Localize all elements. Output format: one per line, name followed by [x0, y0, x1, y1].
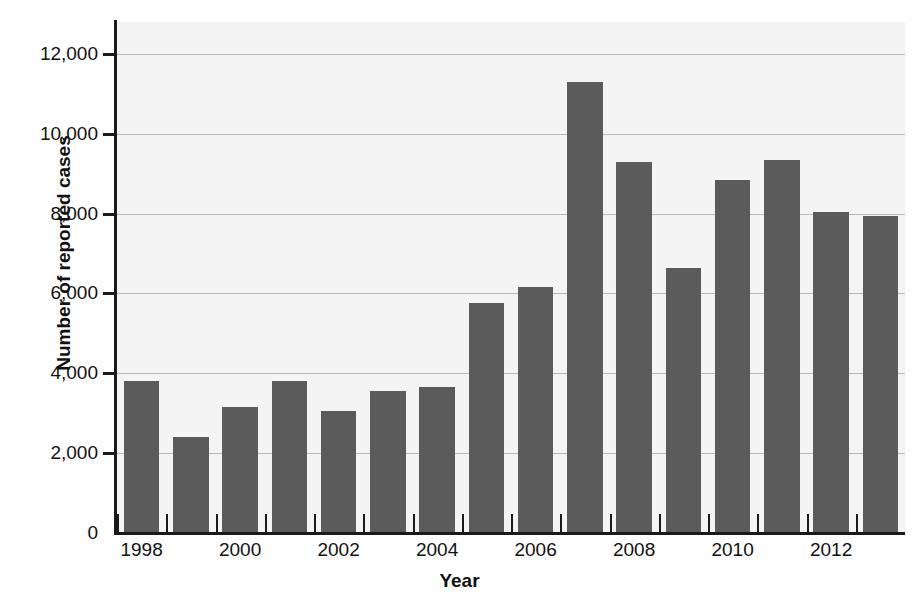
bar — [370, 391, 405, 533]
x-axis-minor-tick-mark — [363, 514, 365, 533]
x-axis-title: Year — [0, 570, 919, 592]
x-axis-minor-tick-mark — [610, 514, 612, 533]
gridline — [117, 134, 905, 135]
bar — [863, 216, 898, 533]
x-axis-minor-tick-mark — [413, 514, 415, 533]
y-axis-tick-mark — [103, 213, 117, 216]
x-axis-minor-tick-mark — [216, 514, 218, 533]
x-axis-minor-tick-mark — [462, 514, 464, 533]
y-axis-tick-label: 4,000 — [12, 363, 98, 382]
x-axis-tick-label: 1998 — [107, 540, 177, 560]
x-axis-minor-tick-mark — [265, 514, 267, 533]
x-axis-minor-tick-mark — [166, 514, 168, 533]
y-axis-tick-label: 6,000 — [12, 283, 98, 302]
x-axis-minor-tick-mark — [314, 514, 316, 533]
y-axis-tick-label: 10,000 — [12, 124, 98, 143]
y-axis-tick-mark — [103, 372, 117, 375]
x-axis-minor-tick-mark — [560, 514, 562, 533]
bar — [715, 180, 750, 533]
x-axis-minor-tick-mark — [708, 514, 710, 533]
y-axis-tick-label: 8,000 — [12, 204, 98, 223]
bar — [813, 212, 848, 533]
bar-chart-figure: Number of reported cases 02,0004,0006,00… — [0, 0, 919, 611]
bar — [124, 381, 159, 533]
bar — [419, 387, 454, 533]
bar — [666, 268, 701, 533]
x-axis-tick-mark — [117, 514, 119, 533]
y-axis-tick-mark — [103, 292, 117, 295]
y-axis-line — [114, 20, 117, 535]
bar — [272, 381, 307, 534]
bar — [616, 162, 651, 533]
x-axis-tick-label: 2012 — [796, 540, 866, 560]
bar — [764, 160, 799, 533]
y-axis-tick-labels: 02,0004,0006,0008,00010,00012,000 — [6, 0, 98, 611]
x-axis-tick-label: 2002 — [304, 540, 374, 560]
x-axis-tick-label: 2006 — [501, 540, 571, 560]
x-axis-minor-tick-mark — [511, 514, 513, 533]
x-axis-tick-label: 2004 — [402, 540, 472, 560]
x-axis-minor-tick-mark — [856, 514, 858, 533]
y-axis-tick-label: 0 — [12, 523, 98, 542]
x-axis-tick-label: 2008 — [599, 540, 669, 560]
x-axis-tick-label: 2000 — [205, 540, 275, 560]
y-axis-tick-label: 12,000 — [12, 44, 98, 63]
x-axis-minor-tick-mark — [659, 514, 661, 533]
y-axis-tick-mark — [103, 53, 117, 56]
x-axis-minor-tick-mark — [807, 514, 809, 533]
gridline — [117, 54, 905, 55]
x-axis-minor-tick-mark — [757, 514, 759, 533]
x-axis-line — [114, 532, 905, 535]
bar — [173, 437, 208, 533]
plot-area — [117, 22, 905, 533]
x-axis-tick-label: 2010 — [698, 540, 768, 560]
y-axis-tick-mark — [103, 452, 117, 455]
y-axis-tick-mark — [103, 133, 117, 136]
bar — [567, 82, 602, 533]
bar — [222, 407, 257, 533]
bar — [518, 287, 553, 533]
bar — [469, 303, 504, 533]
bar — [321, 411, 356, 533]
y-axis-tick-label: 2,000 — [12, 443, 98, 462]
